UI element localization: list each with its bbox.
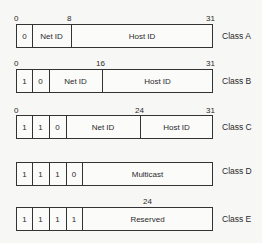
host-id-field: Host ID: [71, 25, 213, 47]
class-bit-field: 0: [17, 25, 33, 47]
class-bit-field: 1: [32, 163, 50, 185]
class-b-address-box: 1 0 Net ID Host ID: [16, 69, 213, 93]
bit-label-24: 24: [135, 106, 144, 115]
bit-label-16: 16: [96, 59, 105, 68]
class-d-label: Class D: [222, 166, 252, 176]
bit-label-0: 0: [14, 14, 18, 23]
class-c-address-box: 1 1 0 Net ID Host ID: [16, 115, 213, 139]
bit-label-8: 8: [67, 14, 71, 23]
class-b-label: Class B: [222, 76, 251, 86]
bit-label-24: 24: [143, 197, 152, 206]
class-e-address-box: 1 1 1 1 Reserved: [16, 207, 213, 231]
class-bit-field: 0: [66, 163, 83, 185]
class-bit-field: 1: [17, 163, 33, 185]
class-bit-field: 1: [32, 116, 50, 138]
bit-label-31: 31: [206, 106, 215, 115]
host-id-field: Host ID: [140, 116, 213, 138]
bit-label-0: 0: [14, 106, 18, 115]
class-bit-field: 1: [17, 208, 33, 230]
class-bit-field: 1: [32, 208, 50, 230]
class-bit-field: 1: [49, 208, 67, 230]
class-bit-field: 0: [49, 116, 67, 138]
class-bit-field: 1: [49, 163, 67, 185]
bit-label-31: 31: [206, 14, 215, 23]
class-a-label: Class A: [222, 31, 251, 41]
class-bit-field: 1: [66, 208, 83, 230]
class-bit-field: 1: [17, 116, 33, 138]
net-id-field: Net ID: [49, 70, 103, 92]
class-bit-field: 0: [32, 70, 50, 92]
class-a-address-box: 0 Net ID Host ID: [16, 24, 213, 48]
bit-label-0: 0: [14, 59, 18, 68]
class-bit-field: 1: [17, 70, 33, 92]
class-d-address-box: 1 1 1 0 Multicast: [16, 162, 213, 186]
net-id-field: Net ID: [32, 25, 72, 47]
class-e-label: Class E: [222, 214, 251, 224]
class-c-label: Class C: [222, 122, 252, 132]
net-id-field: Net ID: [66, 116, 141, 138]
reserved-field: Reserved: [82, 208, 213, 230]
host-id-field: Host ID: [102, 70, 213, 92]
bit-label-31: 31: [206, 59, 215, 68]
multicast-field: Multicast: [82, 163, 213, 185]
